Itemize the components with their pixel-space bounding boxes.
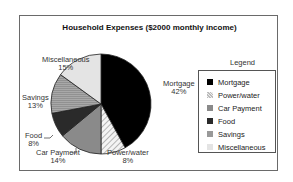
swatch-icon xyxy=(207,92,213,98)
label-pct: 8% xyxy=(107,157,149,165)
label-mortgage: Mortgage 42% xyxy=(163,80,195,96)
label-pct: 14% xyxy=(36,157,80,165)
legend-title: Legend xyxy=(230,58,255,67)
legend-label: Food xyxy=(218,117,235,126)
legend-label: Car Payment xyxy=(218,104,262,113)
legend-item-savings: Savings xyxy=(207,129,245,139)
label-food: Food 8% xyxy=(25,132,42,148)
legend-label: Mortgage xyxy=(218,78,250,87)
label-car-payment: Car Payment 14% xyxy=(36,149,80,165)
chart-frame: Household Expenses ($2000 monthly income… xyxy=(19,15,278,171)
legend-label: Savings xyxy=(218,130,245,139)
legend-item-food: Food xyxy=(207,116,235,126)
swatch-icon xyxy=(207,105,213,111)
swatch-icon xyxy=(207,144,213,150)
swatch-icon xyxy=(207,118,213,124)
swatch-icon xyxy=(207,79,213,85)
label-pct: 42% xyxy=(163,88,195,96)
label-pct: 15% xyxy=(42,64,90,72)
label-pct: 13% xyxy=(22,102,49,110)
label-pct: 8% xyxy=(25,140,42,148)
legend-item-mortgage: Mortgage xyxy=(207,77,250,87)
legend-item-power-water: Power/water xyxy=(207,90,260,100)
legend-label: Power/water xyxy=(218,91,260,100)
label-power-water: Power/water 8% xyxy=(107,149,149,165)
legend-item-car-payment: Car Payment xyxy=(207,103,262,113)
label-savings: Savings 13% xyxy=(22,94,49,110)
legend: Mortgage Power/water Car Payment Food Sa… xyxy=(198,70,276,153)
food-leader-line xyxy=(44,135,53,138)
swatch-icon xyxy=(207,131,213,137)
label-miscellaneous: Miscellaneous 15% xyxy=(42,56,90,72)
legend-item-miscellaneous: Miscellaneous xyxy=(207,142,266,152)
legend-label: Miscellaneous xyxy=(218,143,266,152)
